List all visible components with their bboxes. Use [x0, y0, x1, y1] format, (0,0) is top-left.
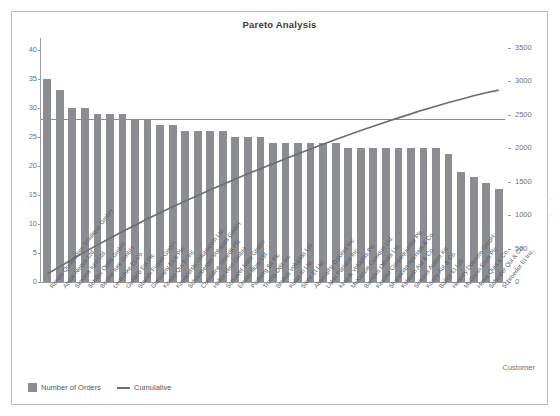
left-tick-label: 0	[20, 278, 37, 286]
left-tick-label: 20	[20, 162, 37, 170]
left-tick-label: 40	[20, 46, 37, 54]
plot-area	[41, 38, 505, 282]
right-tick-mark	[508, 81, 511, 82]
x-axis-labels: Rerum Quibusdam Similique GmbHAtque Nequ…	[41, 283, 505, 379]
left-tick-label: 15	[20, 191, 37, 199]
chart-title: Pareto Analysis	[12, 19, 547, 30]
right-tick-label: 3500	[515, 44, 532, 52]
right-tick-label: 2000	[515, 144, 532, 152]
left-tick-label: 10	[20, 220, 37, 228]
left-tick-label: 30	[20, 104, 37, 112]
ghost-text-1: · · ·	[60, 0, 72, 4]
right-tick-mark	[508, 148, 511, 149]
right-tick-mark	[508, 182, 511, 183]
legend-item-cumulative[interactable]: Cumulative	[117, 383, 172, 392]
left-tick-label: 35	[20, 75, 37, 83]
right-tick-label: 1500	[515, 178, 532, 186]
right-tick-mark	[508, 115, 511, 116]
legend-label-orders: Number of Orders	[41, 383, 101, 392]
right-tick-label: 1000	[515, 211, 532, 219]
edge-mark-2: ¬	[549, 212, 553, 219]
right-tick-mark	[508, 215, 511, 216]
legend-item-orders[interactable]: Number of Orders	[28, 383, 101, 392]
right-tick-label: 0	[515, 278, 519, 286]
legend-swatch-icon	[28, 383, 37, 392]
cumulative-line	[41, 38, 505, 282]
screenshot-root: · · · Pareto Analysis 0510152025303540 0…	[0, 0, 560, 416]
chart-card: Pareto Analysis 0510152025303540 0500100…	[11, 11, 548, 405]
left-tick-label: 25	[20, 133, 37, 141]
left-tick-label: 5	[20, 249, 37, 257]
legend-line-icon	[117, 387, 130, 389]
x-axis-title: Customer	[502, 363, 535, 372]
right-tick-mark	[508, 48, 511, 49]
right-tick-label: 3000	[515, 77, 532, 85]
legend-label-cumulative: Cumulative	[134, 383, 172, 392]
right-tick-label: 2500	[515, 111, 532, 119]
chart-legend: Number of Orders Cumulative	[28, 383, 181, 392]
ghost-top-strip: · · ·	[0, 0, 560, 8]
edge-mark-1: ⌐	[549, 196, 553, 203]
